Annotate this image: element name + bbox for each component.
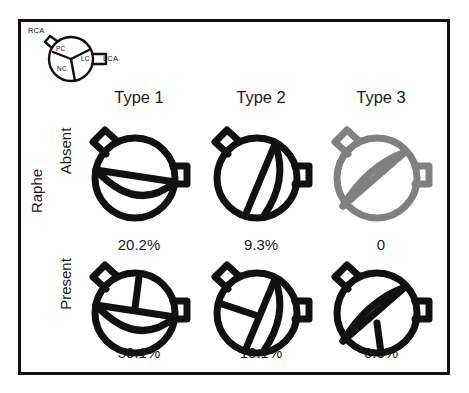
percentage-present-type-2: 10.1% bbox=[201, 344, 321, 361]
row-label-present: Present bbox=[57, 239, 75, 329]
legend-label-lca: LCA bbox=[103, 54, 118, 63]
column-header-type-1: Type 1 bbox=[79, 88, 199, 107]
annulus bbox=[217, 138, 297, 218]
raphe bbox=[219, 303, 255, 315]
axis-title-raphe: Raphe bbox=[28, 151, 46, 231]
column-header-type-3: Type 3 bbox=[321, 88, 441, 107]
valve-diagram-absent-type-2 bbox=[201, 118, 321, 236]
rca-ostium bbox=[215, 265, 239, 289]
valve-key-legend: RCA LCA PC LC NC bbox=[27, 26, 135, 90]
rca-ostium bbox=[335, 265, 359, 289]
rca-ostium bbox=[93, 130, 117, 154]
percentage-absent-type-2: 9.3% bbox=[201, 236, 321, 253]
key-commissure-1 bbox=[53, 52, 71, 59]
percentage-absent-type-1: 20.2% bbox=[79, 236, 199, 253]
valve-diagram-absent-type-1 bbox=[79, 118, 199, 236]
percentage-present-type-3: 0.5% bbox=[321, 344, 441, 361]
legend-label-rca: RCA bbox=[28, 26, 44, 35]
rca-ostium bbox=[335, 130, 359, 154]
key-commissure-3 bbox=[71, 59, 75, 81]
percentage-absent-type-3: 0 bbox=[321, 236, 441, 253]
rca-ostium bbox=[215, 130, 239, 154]
row-label-absent: Absent bbox=[57, 106, 75, 196]
raphe bbox=[135, 277, 139, 308]
percentage-present-type-1: 59.1% bbox=[79, 344, 199, 361]
legend-label-lc: LC bbox=[81, 55, 90, 62]
column-header-type-2: Type 2 bbox=[201, 88, 321, 107]
legend-label-pc: PC bbox=[56, 45, 65, 52]
valve-diagram-absent-type-3 bbox=[321, 118, 441, 236]
legend-label-nc: NC bbox=[57, 65, 67, 72]
rca-ostium bbox=[93, 265, 117, 289]
figure-panel: RCA LCA PC LC NC Raphe Absent Present Ty… bbox=[18, 19, 450, 375]
